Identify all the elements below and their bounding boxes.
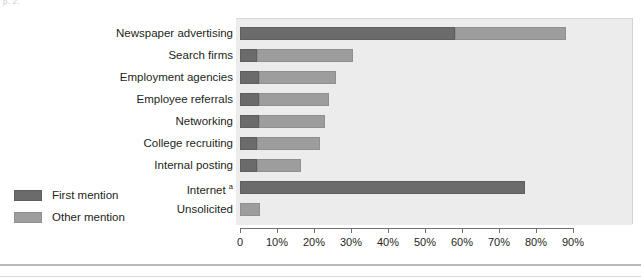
bar-row: Networking: [0, 112, 641, 134]
legend-item-first-mention: First mention: [14, 186, 125, 204]
bar-row: Employment agencies: [0, 68, 641, 90]
category-label: Search firms: [0, 48, 233, 62]
x-tick: [388, 228, 389, 233]
category-label: Employee referrals: [0, 92, 233, 106]
legend-label-first-mention: First mention: [52, 189, 118, 201]
bar-segment-other-mention: [455, 27, 566, 40]
category-label: Internal posting: [0, 158, 233, 172]
bar-row: Internal posting: [0, 156, 641, 178]
category-footnote-marker: a: [229, 182, 233, 191]
bar-segment-other-mention: [257, 159, 301, 172]
bar-segment-other-mention: [240, 203, 260, 216]
legend-swatch-first-mention-icon: [14, 190, 42, 201]
x-tick-label: 20%: [303, 236, 325, 248]
bar-segment-first-mention: [240, 71, 259, 84]
bar-row: College recruiting: [0, 134, 641, 156]
x-tick-label: 10%: [266, 236, 288, 248]
x-tick: [314, 228, 315, 233]
x-tick-label: 70%: [488, 236, 510, 248]
bar-segment-first-mention: [240, 115, 259, 128]
x-tick-label: 30%: [340, 236, 362, 248]
bar-segment-other-mention: [259, 115, 326, 128]
bar-row: Employee referrals: [0, 90, 641, 112]
legend-label-other-mention: Other mention: [52, 211, 125, 223]
x-tick: [573, 228, 574, 233]
chart-legend: First mention Other mention: [14, 186, 125, 230]
x-tick: [425, 228, 426, 233]
legend-item-other-mention: Other mention: [14, 208, 125, 226]
category-label: Newspaper advertising: [0, 26, 233, 40]
x-tick-label: 50%: [414, 236, 436, 248]
x-tick: [536, 228, 537, 233]
x-axis-line: [240, 228, 574, 229]
x-tick-label: 90%: [562, 236, 584, 248]
x-tick-label: 40%: [377, 236, 399, 248]
category-label: Employment agencies: [0, 70, 233, 84]
bar-row: Newspaper advertising: [0, 24, 641, 46]
bar-segment-other-mention: [259, 71, 337, 84]
bar-segment-other-mention: [257, 137, 320, 150]
bar-segment-first-mention: [240, 159, 257, 172]
category-label: Networking: [0, 114, 233, 128]
x-tick-label: 60%: [451, 236, 473, 248]
footer-rule-top: [0, 264, 641, 266]
chart-figure: p. 2. Newspaper advertisingSearch firmsE…: [0, 0, 641, 279]
x-tick: [499, 228, 500, 233]
x-tick: [277, 228, 278, 233]
legend-swatch-other-mention-icon: [14, 212, 42, 223]
x-tick: [240, 228, 241, 233]
bar-segment-first-mention: [240, 49, 257, 62]
bar-row: Search firms: [0, 46, 641, 68]
x-tick: [351, 228, 352, 233]
x-tick: [462, 228, 463, 233]
category-label: College recruiting: [0, 136, 233, 150]
footer-rule-bottom: [0, 276, 641, 277]
bar-segment-other-mention: [257, 49, 353, 62]
bar-segment-first-mention: [240, 93, 259, 106]
bar-segment-other-mention: [259, 93, 329, 106]
x-tick-label: 80%: [525, 236, 547, 248]
x-tick-label: 0: [237, 236, 243, 248]
bar-segment-first-mention: [240, 27, 455, 40]
bar-segment-first-mention: [240, 137, 257, 150]
page-ghost-text: p. 2.: [3, 0, 20, 6]
bar-segment-first-mention: [240, 181, 525, 194]
